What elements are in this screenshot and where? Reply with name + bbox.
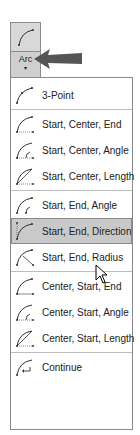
menu-item-start-end-angle[interactable]: Start, End, Angle <box>11 192 132 218</box>
chevron-down-icon: ▾ <box>24 65 27 71</box>
menu-item-label: Start, End, Direction <box>42 226 131 237</box>
menu-item-continue[interactable]: Continue <box>11 354 132 380</box>
menu-item-center-start-end[interactable]: Center, Start, End <box>11 273 132 299</box>
menu-separator <box>11 190 132 191</box>
arc-center-start-length-icon <box>14 327 38 349</box>
arc-start-end-angle-icon <box>14 194 38 216</box>
arc-button-label: Arc <box>19 54 33 64</box>
arc-start-end-radius-icon <box>14 246 38 268</box>
menu-item-label: 3-Point <box>42 90 74 101</box>
menu-item-start-center-angle[interactable]: Start, Center, Angle <box>11 137 132 163</box>
mouse-cursor-icon <box>94 264 110 286</box>
menu-item-start-end-radius[interactable]: Start, End, Radius <box>11 244 132 270</box>
menu-item-start-end-direction[interactable]: Start, End, Direction <box>11 218 132 244</box>
arc-center-start-angle-icon <box>14 301 38 323</box>
menu-item-label: Start, Center, Angle <box>42 145 129 156</box>
arc-start-center-end-icon <box>14 113 38 135</box>
menu-item-center-start-length[interactable]: Center, Start, Length <box>11 325 132 351</box>
menu-item-label: Start, End, Radius <box>42 252 123 263</box>
menu-item-label: Start, Center, End <box>42 119 122 130</box>
pointer-arrow-icon <box>34 48 84 70</box>
menu-item-label: Center, Start, Length <box>42 333 134 344</box>
menu-item-3-point[interactable]: 3-Point <box>11 82 132 108</box>
arc-dropdown-menu: 3-Point Start, Center, End Start, Center… <box>10 77 133 430</box>
arc-start-end-direction-icon <box>14 220 38 242</box>
menu-item-label: Center, Start, Angle <box>42 307 129 318</box>
menu-separator <box>11 109 132 110</box>
menu-item-label: Start, End, Angle <box>42 200 117 211</box>
menu-separator <box>11 271 132 272</box>
menu-item-center-start-angle[interactable]: Center, Start, Angle <box>11 299 132 325</box>
menu-item-label: Continue <box>42 362 82 373</box>
menu-item-start-center-end[interactable]: Start, Center, End <box>11 111 132 137</box>
menu-separator <box>11 352 132 353</box>
arc-icon <box>15 26 37 48</box>
arc-start-center-length-icon <box>14 165 38 187</box>
menu-item-start-center-length[interactable]: Start, Center, Length <box>11 163 132 189</box>
menu-item-label: Start, Center, Length <box>42 171 134 182</box>
arc-continue-icon <box>14 356 38 378</box>
arc-start-center-angle-icon <box>14 139 38 161</box>
arc-3point-icon <box>14 84 38 106</box>
arc-center-start-end-icon <box>14 275 38 297</box>
